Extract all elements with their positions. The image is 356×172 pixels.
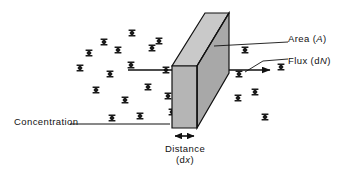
molecule-glyph [149, 45, 156, 52]
molecule-glyph [115, 47, 122, 54]
molecule-glyph [165, 93, 172, 100]
concentration-label: Concentration [14, 116, 78, 127]
molecule-glyph [129, 30, 136, 37]
slab-solid [172, 13, 229, 128]
molecule-glyph [101, 39, 108, 46]
distance-label-text: Distance [165, 143, 205, 154]
molecule-glyph [107, 71, 114, 78]
molecule-glyph [109, 115, 116, 122]
molecule-glyph [236, 71, 243, 78]
distance-close-paren: ) [190, 154, 194, 165]
molecule-glyph [235, 95, 242, 102]
molecule-glyph [86, 50, 93, 57]
flux-label: Flux (dN) [288, 55, 331, 66]
molecule-glyph [137, 113, 144, 120]
molecule-glyph [242, 47, 249, 54]
flux-label-text: Flux [288, 55, 308, 66]
area-label: Area (A) [288, 33, 327, 44]
molecule-glyph [278, 64, 285, 71]
molecule-glyph [156, 38, 163, 45]
distance-symbol-group: (dx) [161, 154, 209, 165]
area-label-text: Area [288, 33, 310, 44]
molecule-glyph [77, 65, 84, 72]
molecule-glyph [122, 97, 129, 104]
flux-close-paren: ) [327, 55, 331, 66]
molecule-glyph [145, 84, 152, 91]
molecule-glyph [252, 89, 259, 96]
molecule-glyph [128, 62, 135, 69]
molecule-glyph [93, 87, 100, 94]
diffusion-diagram: Area (A) Flux (dN) Concentration Distanc… [0, 0, 356, 172]
area-close-paren: ) [323, 33, 327, 44]
slab-front-face [172, 66, 197, 128]
molecule-glyph [262, 114, 269, 121]
distance-label: Distance (dx) [161, 143, 209, 165]
